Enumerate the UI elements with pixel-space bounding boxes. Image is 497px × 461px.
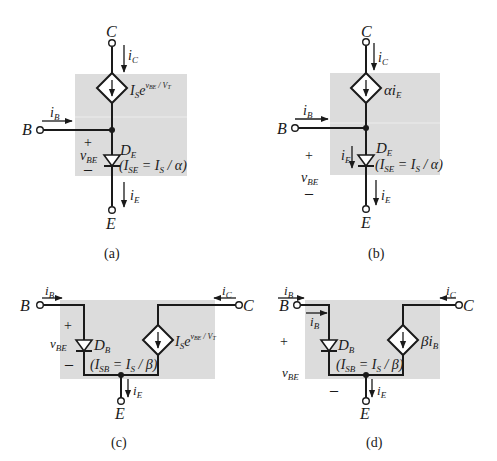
svg-text:E: E [360, 214, 371, 231]
junction-dot [109, 127, 115, 133]
svg-text:vBE: vBE [282, 365, 299, 382]
svg-text:–: – [304, 184, 314, 201]
svg-text:–: – [329, 381, 339, 398]
emitter-terminal [118, 398, 125, 405]
emitter-label: E [105, 215, 116, 232]
svg-text:B: B [277, 120, 287, 137]
svg-text:–: – [83, 160, 93, 177]
base-label: B [22, 121, 32, 138]
svg-text:C: C [463, 297, 474, 314]
base-terminal [292, 125, 299, 132]
svg-text:iE: iE [381, 188, 391, 205]
collector-label: C [106, 23, 117, 40]
caption-c: (c) [111, 435, 127, 451]
svg-text:+: + [280, 334, 288, 349]
svg-text:iB: iB [45, 283, 55, 300]
panel-c: B iB iC C + vBE – DB (ISB = IS / β) ISev… [20, 283, 254, 451]
collector-terminal [456, 302, 463, 309]
svg-text:E: E [114, 405, 125, 422]
svg-text:iE: iE [377, 383, 387, 400]
caption-d: (d) [366, 435, 383, 451]
svg-text:iB: iB [303, 103, 313, 120]
panel-d: B iB iB iC C + vBE – DB (ISB = IS / β) β… [278, 283, 474, 451]
collector-terminal [109, 40, 116, 47]
svg-text:iC: iC [446, 283, 457, 300]
svg-text:C: C [361, 23, 372, 40]
svg-text:iE: iE [133, 383, 143, 400]
svg-text:iB: iB [50, 105, 60, 122]
caption-b: (b) [368, 246, 385, 262]
caption-a: (a) [104, 246, 120, 262]
panel-b: C iC αiE iB B iE DE (ISE = IS / α) + vBE… [277, 23, 443, 262]
base-terminal [294, 302, 301, 309]
svg-text:iB: iB [284, 283, 294, 300]
emitter-terminal [363, 206, 370, 213]
svg-text:+: + [305, 148, 313, 163]
svg-text:+: + [64, 318, 72, 333]
junction-dot [363, 372, 369, 378]
junction-dot [363, 125, 369, 131]
base-terminal [37, 302, 44, 309]
base-terminal [37, 127, 44, 134]
svg-text:B: B [20, 297, 30, 314]
svg-text:iC: iC [128, 48, 139, 65]
junction-dot [118, 372, 124, 378]
bjt-equivalent-circuits-figure: C iC ISevBE / VT iB B + vBE – DE (ISE = … [0, 0, 497, 461]
emitter-terminal [363, 398, 370, 405]
emitter-terminal [109, 207, 116, 214]
svg-text:iC: iC [378, 50, 389, 67]
svg-text:iE: iE [130, 188, 140, 205]
svg-text:E: E [359, 405, 370, 422]
svg-text:–: – [64, 355, 74, 372]
collector-terminal [236, 302, 243, 309]
svg-text:C: C [243, 297, 254, 314]
svg-text:iC: iC [222, 283, 233, 300]
panel-a: C iC ISevBE / VT iB B + vBE – DE (ISE = … [22, 23, 187, 262]
